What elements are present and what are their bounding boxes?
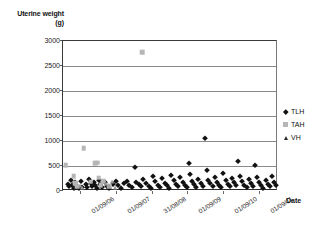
data-point-tah <box>95 160 100 165</box>
data-point-vh <box>113 186 117 190</box>
legend-item-tah[interactable]: TAH <box>281 118 319 131</box>
data-point-tlh <box>236 158 241 163</box>
data-point-tlh <box>188 171 193 176</box>
x-tick-mark <box>116 191 117 194</box>
data-point-tlh <box>219 185 224 190</box>
data-point-tlh <box>251 183 256 188</box>
data-point-tlh <box>261 185 266 190</box>
data-point-tlh <box>148 185 153 190</box>
x-tick-mark <box>223 191 224 194</box>
data-point-tah <box>140 50 145 55</box>
data-point-tlh <box>202 135 207 140</box>
y-tick-label: 2000 <box>24 87 60 94</box>
data-point-tlh <box>132 164 137 169</box>
data-point-tah <box>88 179 93 184</box>
x-tick-mark <box>259 191 260 194</box>
data-point-tlh <box>118 185 123 190</box>
data-point-vh <box>110 180 114 184</box>
x-tick-mark <box>187 191 188 194</box>
data-point-tlh <box>158 184 163 189</box>
data-point-tlh <box>227 184 232 189</box>
legend-item-tlh[interactable]: TLH <box>281 105 319 118</box>
y-axis-title-line1: Uterine weight <box>2 9 64 18</box>
data-point-tah <box>81 146 86 151</box>
y-axis-title-line2: (g) <box>2 18 64 27</box>
data-point-tlh <box>210 183 215 188</box>
x-tick-label: 01/09/09 <box>197 195 222 215</box>
data-point-tlh <box>238 173 243 178</box>
gridline <box>63 66 276 67</box>
data-point-vh <box>107 184 111 188</box>
legend-item-vh[interactable]: VH <box>281 131 319 144</box>
x-tick-label: 31/08/08 <box>162 195 187 215</box>
data-point-tlh <box>234 183 239 188</box>
legend-item-label: TAH <box>291 121 304 128</box>
y-tick-label: 1500 <box>24 112 60 119</box>
gridline <box>63 141 276 142</box>
data-point-tah <box>63 163 68 168</box>
legend-item-label: VH <box>291 134 301 141</box>
y-axis-tick-labels: 300025002000150010005000 <box>22 40 60 190</box>
x-axis-tick-labels: 01/09/0601/09/0731/08/0801/09/0901/09/10… <box>62 191 277 230</box>
y-tick-label: 1000 <box>24 137 60 144</box>
plot-area <box>62 40 277 190</box>
data-point-tlh <box>273 182 278 187</box>
data-point-tlh <box>169 172 174 177</box>
data-point-tlh <box>194 184 199 189</box>
gridline <box>63 91 276 92</box>
data-point-tlh <box>244 184 249 189</box>
y-tick-label: 0 <box>24 187 60 194</box>
x-tick-label: 01/09/10 <box>233 195 258 215</box>
y-tick-label: 500 <box>24 162 60 169</box>
data-point-tah <box>71 174 76 179</box>
x-tick-label: 01/09/06 <box>90 195 115 215</box>
x-tick-mark <box>152 191 153 194</box>
y-tick-label: 3000 <box>24 37 60 44</box>
chart-legend: TLHTAHVH <box>281 105 319 144</box>
data-point-tlh <box>129 184 134 189</box>
data-point-vh <box>80 185 84 189</box>
x-tick-mark <box>80 191 81 194</box>
triangle-icon <box>281 136 290 140</box>
data-point-tlh <box>175 184 180 189</box>
legend-item-label: TLH <box>291 108 304 115</box>
data-point-tlh <box>186 160 191 165</box>
data-point-tlh <box>204 167 209 172</box>
data-point-tlh <box>138 184 143 189</box>
x-axis-title: Date <box>286 197 301 204</box>
data-point-tlh <box>184 185 189 190</box>
data-point-tlh <box>270 173 275 178</box>
gridline <box>63 166 276 167</box>
x-tick-label: 01/09/07 <box>126 195 151 215</box>
data-point-tah <box>99 183 104 188</box>
y-axis-title: Uterine weight (g) <box>2 9 64 27</box>
gridline <box>63 116 276 117</box>
y-tick-label: 2500 <box>24 62 60 69</box>
diamond-icon <box>281 110 290 114</box>
square-icon <box>281 122 290 127</box>
scatter-chart: Uterine weight (g) 300025002000150010005… <box>0 0 320 230</box>
data-point-tlh <box>200 183 205 188</box>
data-point-tlh <box>167 185 172 190</box>
data-point-tlh <box>221 171 226 176</box>
